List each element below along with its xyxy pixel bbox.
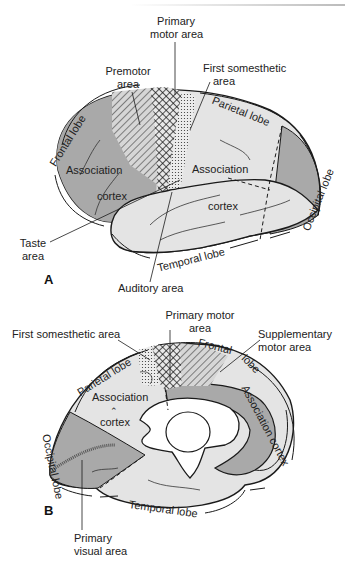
panel-b-brain	[50, 330, 294, 530]
label-line: area	[203, 75, 286, 88]
label-a-cortex-frontal: cortex	[97, 190, 127, 203]
label-a-association-parietal: Association	[192, 163, 248, 176]
panel-label-a: A	[44, 272, 53, 287]
label-line: area	[98, 78, 158, 91]
label-line: area	[160, 322, 240, 335]
label-line: Supplementary	[258, 328, 332, 341]
label-a-first-somesthetic: First somesthetic area	[203, 62, 286, 88]
label-b-association: Association	[92, 391, 148, 404]
label-line: area	[14, 250, 52, 263]
label-a-auditory: Auditory area	[118, 282, 183, 295]
label-a-taste: Taste area	[14, 237, 52, 263]
panel-label-b: B	[44, 503, 53, 518]
label-line: Premotor	[98, 65, 158, 78]
label-b-cortex: cortex	[100, 416, 130, 429]
label-b-primary-motor: Primary motor area	[160, 309, 240, 335]
label-line: First somesthetic	[203, 62, 286, 75]
label-line: motor area	[150, 28, 202, 41]
label-a-cortex-temporal: cortex	[208, 200, 238, 213]
label-line: Primary	[74, 532, 127, 545]
label-a-primary-motor: Primary motor area	[150, 15, 202, 41]
label-line: Primary motor	[160, 309, 240, 322]
label-line: motor area	[258, 341, 332, 354]
label-b-primary-visual: Primary visual area	[74, 532, 127, 558]
label-b-first-somesthetic: First somesthetic area	[12, 328, 120, 341]
label-a-premotor: Premotor area	[98, 65, 158, 91]
label-line: Primary	[150, 15, 202, 28]
label-line: Taste	[14, 237, 52, 250]
label-b-supplementary-motor: Supplementary motor area	[258, 328, 332, 354]
label-a-association-frontal: Association	[66, 164, 122, 177]
label-line: visual area	[74, 545, 127, 558]
